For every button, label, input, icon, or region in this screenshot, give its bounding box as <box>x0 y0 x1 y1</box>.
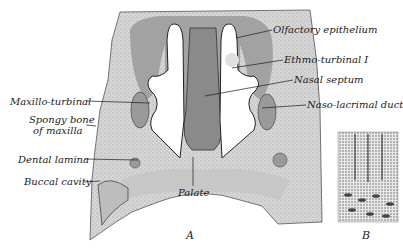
anatomical-figure: Olfactory epithelium Ethmo-turbinal I Na… <box>0 0 403 249</box>
panel-a-section <box>90 10 322 240</box>
label-spongy-bone-1: Spongy bone <box>29 114 95 125</box>
panel-a-letter: A <box>186 229 194 242</box>
label-spongy-bone-2: of maxilla <box>33 125 83 136</box>
label-dental-lamina: Dental lamina <box>18 154 89 165</box>
label-palate: Palate <box>178 187 209 198</box>
label-buccal-cavity: Buccal cavity <box>24 176 91 187</box>
label-maxillo-turbinal: Maxillo-turbinal <box>10 96 91 107</box>
label-olfactory-epithelium: Olfactory epithelium <box>273 24 378 35</box>
label-ethmo-turbinal: Ethmo-turbinal I <box>284 54 368 65</box>
panel-b-letter: B <box>362 229 370 242</box>
label-nasal-septum: Nasal septum <box>294 74 364 85</box>
panel-b-inset <box>338 132 398 222</box>
label-naso-lacrimal-duct: Naso-lacrimal duct <box>307 99 403 110</box>
